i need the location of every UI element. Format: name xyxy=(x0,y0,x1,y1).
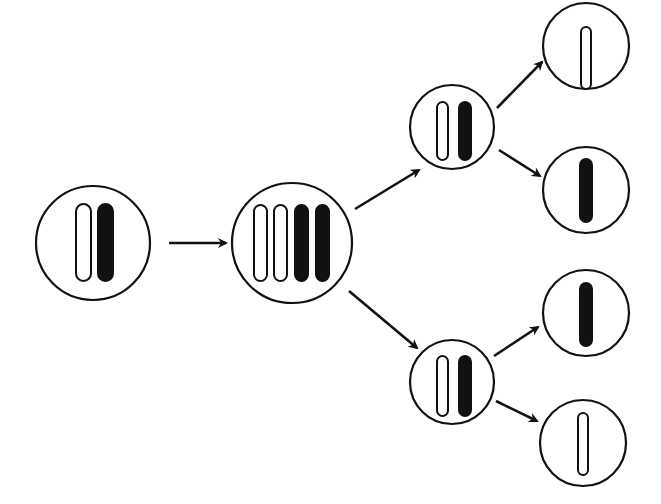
gamete-3 xyxy=(543,270,629,356)
chromosome-filled xyxy=(580,159,592,222)
chromosome-open xyxy=(581,27,591,89)
chromatid-open xyxy=(254,205,267,281)
chromosome-open xyxy=(76,204,91,281)
chromosome-filled xyxy=(459,356,471,416)
chromosome-open xyxy=(437,356,448,416)
diagram-canvas xyxy=(0,0,661,504)
arrow-replicated-to-bottom xyxy=(349,291,417,348)
gamete-2 xyxy=(543,147,629,233)
gamete-1 xyxy=(543,3,629,89)
arrow-top-to-gamete-2 xyxy=(499,150,540,176)
chromosome-open xyxy=(437,102,448,160)
arrow-bottom-to-gamete-3 xyxy=(494,327,538,356)
arrow-top-to-gamete-1 xyxy=(497,62,542,108)
chromatid-filled xyxy=(295,205,308,281)
parent-cell xyxy=(36,186,150,300)
daughter-cell-top xyxy=(410,85,494,169)
chromatid-open xyxy=(274,205,287,281)
chromosome-filled xyxy=(459,102,471,160)
arrow-replicated-to-top xyxy=(355,170,419,209)
chromosome-filled xyxy=(580,283,592,346)
arrow-bottom-to-gamete-4 xyxy=(496,401,537,421)
chromosome-filled xyxy=(98,204,113,281)
daughter-cell-bottom xyxy=(410,340,494,424)
chromosome-open xyxy=(578,413,588,475)
meiosis-diagram xyxy=(0,0,661,504)
replicated-cell xyxy=(232,183,352,303)
chromatid-filled xyxy=(316,205,329,281)
gamete-4 xyxy=(540,400,626,486)
